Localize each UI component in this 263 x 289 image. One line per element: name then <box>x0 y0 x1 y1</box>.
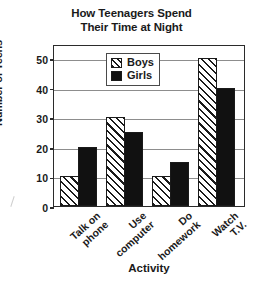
chart-title-line-2: Their Time at Night <box>0 20 263 34</box>
bar-boys <box>60 176 79 206</box>
chart-title-line-1: How Teenagers Spend <box>0 6 263 20</box>
bar-boys <box>106 117 125 206</box>
bar-girls <box>78 147 97 206</box>
legend-swatch-girls-icon <box>111 71 122 81</box>
bar-group <box>60 60 97 206</box>
y-axis-tick-label: 20 <box>36 144 48 155</box>
y-axis-tick-label: 30 <box>36 114 48 125</box>
legend-label-girls: Girls <box>127 70 152 81</box>
legend-item-girls: Girls <box>111 69 154 82</box>
bar-group <box>198 60 235 206</box>
legend: Boys Girls <box>106 53 160 86</box>
y-axis-tick-label: 40 <box>36 84 48 95</box>
scan-artifact <box>10 196 14 207</box>
legend-label-boys: Boys <box>127 57 154 68</box>
bar-boys <box>152 176 171 206</box>
y-axis-tick-label: 0 <box>42 203 48 214</box>
y-axis-tick <box>50 207 54 209</box>
chart-title: How Teenagers Spend Their Time at Night <box>0 6 263 34</box>
legend-item-boys: Boys <box>111 56 154 69</box>
bar-boys <box>198 58 217 206</box>
y-axis-tick-label: 10 <box>36 173 48 184</box>
bar-chart: How Teenagers Spend Their Time at Night … <box>0 0 263 289</box>
x-axis-title: Activity <box>53 262 245 274</box>
bar-girls <box>170 162 189 206</box>
bar-girls <box>124 132 143 206</box>
legend-swatch-boys-icon <box>111 58 122 68</box>
bar-girls <box>216 88 235 206</box>
y-axis-tick-label: 50 <box>36 55 48 66</box>
y-axis-title: Number of Teens <box>0 40 4 126</box>
